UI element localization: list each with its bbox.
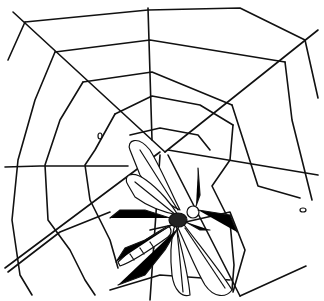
spiral-ring: [55, 40, 285, 62]
spiral-ring: [8, 212, 110, 272]
spiral-ring: [83, 72, 232, 105]
dew-drop: [300, 208, 306, 212]
spiral-ring: [305, 40, 318, 98]
insect-leg: [110, 210, 170, 218]
insect-leg: [186, 222, 210, 230]
spiral-ring: [240, 266, 306, 296]
spiral-ring: [25, 8, 305, 40]
radial-thread: [13, 12, 165, 152]
insect: [110, 141, 237, 296]
spiral-ring: [232, 105, 300, 198]
spiral-ring: [285, 62, 312, 200]
radial-thread: [148, 8, 152, 140]
dew-drop: [98, 133, 102, 139]
insect-antenna: [196, 168, 200, 206]
illustration-canvas: [0, 0, 324, 301]
spiral-ring: [5, 166, 128, 167]
insect-head: [187, 206, 199, 218]
spiral-ring: [115, 96, 233, 125]
spiral-ring: [45, 82, 95, 295]
radial-thread: [168, 150, 318, 175]
spider-web-drawing: [0, 0, 324, 301]
spiral-ring: [8, 22, 25, 60]
spider-web: [5, 8, 318, 300]
